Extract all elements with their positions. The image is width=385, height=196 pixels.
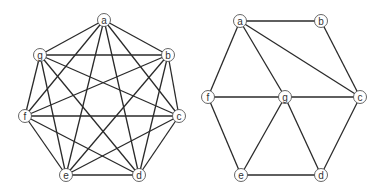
node-d: d (315, 169, 328, 182)
right-graph-nodes: abcdefg (202, 15, 367, 182)
edge-g-d (285, 97, 321, 175)
node-e: e (60, 169, 73, 182)
node-label: d (136, 170, 142, 181)
node-label: e (63, 170, 69, 181)
node-label: b (165, 50, 171, 61)
edge-b-c (321, 21, 360, 97)
node-c: c (173, 110, 186, 123)
node-b: b (162, 49, 175, 62)
node-b: b (315, 15, 328, 28)
node-label: c (177, 111, 182, 122)
node-g: g (279, 91, 292, 104)
node-label: a (101, 15, 107, 26)
edge-a-c (240, 21, 360, 97)
edge-a-g (240, 21, 285, 97)
node-label: a (237, 16, 243, 27)
node-f: f (202, 91, 215, 104)
edge-a-f (208, 21, 240, 97)
edge-b-c (168, 55, 179, 116)
node-label: g (282, 92, 288, 103)
node-a: a (234, 15, 247, 28)
node-e: e (235, 169, 248, 182)
node-f: f (19, 110, 32, 123)
node-label: e (238, 170, 244, 181)
edge-f-e (208, 97, 241, 175)
node-label: d (318, 170, 324, 181)
graph-diagram-svg: abcdefgabcdefg (0, 0, 385, 196)
edge-c-d (321, 97, 360, 175)
node-g: g (34, 49, 47, 62)
graph-diagram-canvas: abcdefgabcdefg (0, 0, 385, 196)
node-label: b (318, 16, 324, 27)
node-a: a (98, 14, 111, 27)
edge-a-g (40, 20, 104, 55)
edge-c-g (40, 55, 179, 116)
node-label: f (207, 92, 210, 103)
node-d: d (133, 169, 146, 182)
node-label: c (358, 92, 363, 103)
node-c: c (354, 91, 367, 104)
edge-c-d (139, 116, 179, 175)
edges-layer (25, 20, 360, 175)
node-label: f (24, 111, 27, 122)
edge-g-e (241, 97, 285, 175)
edge-a-b (104, 20, 168, 55)
node-label: g (37, 50, 43, 61)
left-graph-complete-k7-edges (25, 20, 179, 175)
